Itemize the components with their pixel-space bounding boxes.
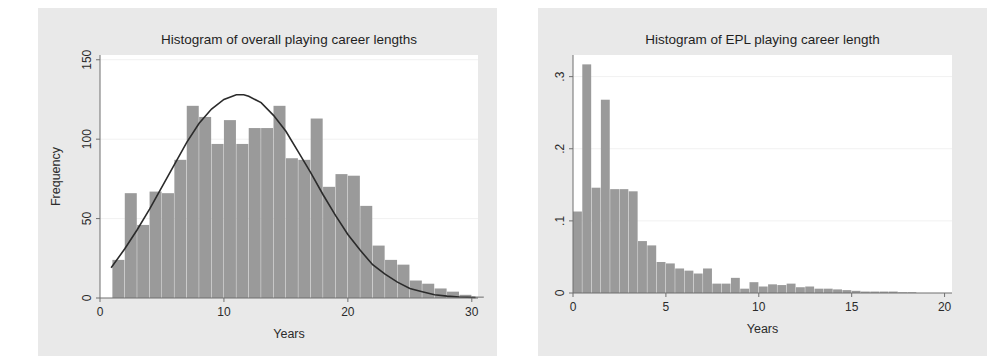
bar-12: [684, 271, 693, 293]
x-tick-label-3: 30: [465, 305, 479, 319]
bar-4: [610, 189, 619, 293]
x-tick-label-3: 15: [845, 300, 859, 314]
bar-28: [833, 289, 842, 293]
bar-18: [740, 289, 749, 293]
y-tick-label-3: .3: [553, 71, 567, 81]
bar-10: [236, 144, 248, 298]
epl-career-length-chart: 0.1.2.305101520YearsDensityHistogram of …: [538, 8, 987, 356]
bar-26: [815, 289, 824, 293]
chart-title: Histogram of EPL playing career length: [645, 32, 879, 47]
x-tick-label-1: 5: [663, 300, 670, 314]
x-tick-label-1: 10: [217, 305, 231, 319]
x-axis-title: Years: [747, 322, 779, 336]
y-axis-title: Frequency: [49, 146, 63, 206]
bar-4: [162, 193, 174, 298]
bar-27: [824, 289, 833, 293]
bar-15: [298, 160, 310, 298]
x-tick-label-2: 10: [752, 300, 766, 314]
bar-9: [657, 262, 666, 293]
x-tick-label-0: 0: [97, 305, 104, 319]
bar-25: [805, 287, 814, 293]
bar-8: [212, 144, 224, 298]
bar-18: [335, 174, 347, 298]
y-tick-label-1: .1: [553, 216, 567, 226]
bar-14: [703, 268, 712, 293]
bar-13: [694, 274, 703, 293]
bar-21: [768, 284, 777, 293]
bar-19: [749, 282, 758, 293]
bar-13: [274, 106, 286, 298]
x-tick-label-2: 20: [341, 305, 355, 319]
y-tick-label-3: 150: [80, 49, 94, 69]
bar-2: [137, 225, 149, 298]
bar-3: [601, 100, 610, 293]
bar-1: [582, 64, 591, 293]
y-tick-label-1: 50: [80, 212, 94, 226]
y-tick-label-0: 0: [80, 294, 94, 301]
bar-2: [592, 188, 601, 293]
bar-6: [187, 106, 199, 298]
bar-7: [638, 241, 647, 293]
overall-career-lengths-chart: 0501001500102030YearsFrequencyHistogram …: [38, 8, 497, 356]
bar-5: [619, 189, 628, 293]
bar-3: [150, 192, 162, 298]
bar-22: [777, 285, 786, 293]
bar-10: [666, 263, 675, 293]
x-tick-label-0: 0: [570, 300, 577, 314]
figure-container: 0501001500102030YearsFrequencyHistogram …: [0, 0, 993, 363]
bar-0: [112, 260, 124, 298]
bar-15: [712, 284, 721, 293]
y-tick-label-2: .2: [553, 143, 567, 153]
chart-panel-epl: 0.1.2.305101520YearsDensityHistogram of …: [538, 8, 987, 356]
bar-20: [759, 287, 768, 293]
chart-title: Histogram of overall playing career leng…: [161, 32, 417, 47]
x-tick-label-4: 20: [938, 300, 952, 314]
bar-14: [286, 158, 298, 298]
bar-25: [422, 284, 434, 298]
y-tick-label-2: 100: [80, 129, 94, 149]
bar-7: [199, 117, 211, 298]
bar-9: [224, 120, 236, 298]
bar-0: [573, 212, 582, 293]
bar-24: [796, 287, 805, 293]
bar-17: [731, 278, 740, 293]
x-axis-title: Years: [273, 327, 305, 341]
bar-12: [261, 128, 273, 298]
y-tick-label-0: 0: [553, 289, 567, 296]
bar-16: [311, 119, 323, 298]
bar-11: [249, 128, 261, 298]
bar-23: [787, 284, 796, 293]
bar-11: [675, 268, 684, 293]
bar-23: [397, 265, 409, 298]
bar-6: [629, 191, 638, 293]
bar-5: [174, 160, 186, 298]
chart-panel-overall: 0501001500102030YearsFrequencyHistogram …: [38, 8, 497, 356]
bar-8: [647, 245, 656, 293]
bar-16: [722, 284, 731, 293]
